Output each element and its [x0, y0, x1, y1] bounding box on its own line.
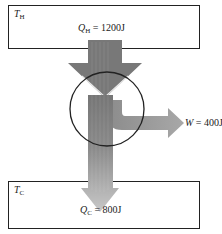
work-arrow: [108, 100, 184, 138]
heat-out-label: QC = 800J: [80, 204, 121, 217]
work-label: W = 400J: [185, 117, 222, 128]
heat-in-label: QH = 1200J: [78, 22, 125, 35]
hot-reservoir-label: TH: [14, 8, 25, 21]
cold-reservoir-label: TC: [14, 184, 24, 197]
